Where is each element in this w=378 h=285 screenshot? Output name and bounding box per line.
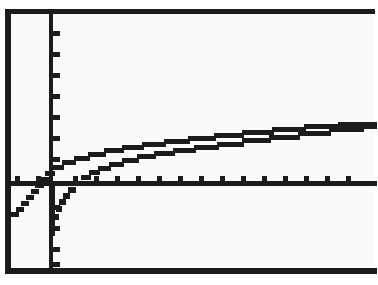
calculator-screen <box>0 0 378 285</box>
screen-bezel <box>5 9 377 274</box>
vertical-asymptote <box>50 186 55 236</box>
graph-canvas[interactable] <box>0 0 378 285</box>
